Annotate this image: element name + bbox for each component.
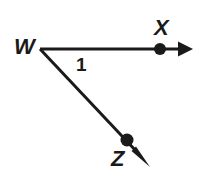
ray-wx-arrowhead xyxy=(178,42,193,57)
point-z-dot xyxy=(121,134,134,147)
geometry-figure: W X Z 1 xyxy=(0,0,199,180)
angle-label-1: 1 xyxy=(76,55,87,74)
angle-diagram-svg xyxy=(0,0,199,180)
point-label-z: Z xyxy=(111,148,124,170)
point-x-dot xyxy=(154,43,166,55)
vertex-label-w: W xyxy=(14,36,35,58)
ray-wx xyxy=(40,42,193,57)
ray-wz-arrowhead xyxy=(132,147,151,168)
ray-wz xyxy=(40,49,150,167)
point-label-x: X xyxy=(154,17,169,39)
